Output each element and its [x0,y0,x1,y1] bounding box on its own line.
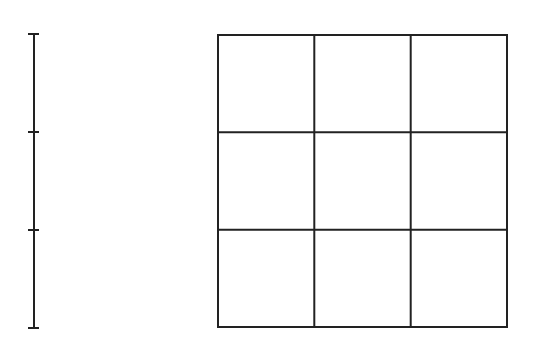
divided-segment [28,34,39,328]
grid-border [218,35,507,327]
diagram-canvas [0,0,534,340]
three-by-three-grid [218,35,507,327]
